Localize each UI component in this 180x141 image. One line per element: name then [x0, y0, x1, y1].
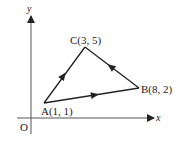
point-label-a: A(1, 1) — [41, 105, 73, 118]
x-axis-label: x — [155, 112, 161, 123]
origin-label: O — [20, 121, 28, 133]
point-label-c: C(3, 5) — [70, 34, 102, 47]
triangle-diagram: x y O C(3, 5) B(8, 2) A(1, 1) — [0, 0, 180, 141]
point-label-b: B(8, 2) — [141, 83, 173, 96]
arrow-icon-bc — [106, 61, 117, 71]
y-axis-label: y — [26, 3, 32, 14]
